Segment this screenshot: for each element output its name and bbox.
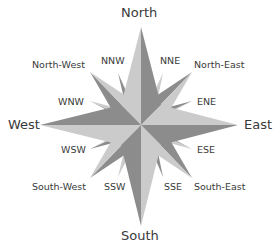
- label-ene: ENE: [197, 97, 216, 107]
- label-ssw: SSW: [104, 182, 125, 192]
- label-south: South: [121, 229, 159, 242]
- label-nne: NNE: [160, 56, 180, 66]
- label-south-east: South-East: [194, 182, 246, 192]
- label-east: East: [244, 118, 272, 131]
- label-south-west: South-West: [32, 182, 86, 192]
- label-north-west: North-West: [32, 60, 85, 70]
- label-west: West: [8, 118, 40, 131]
- cardinal-points: [40, 27, 238, 226]
- label-north-east: North-East: [194, 60, 245, 70]
- label-wnw: WNW: [58, 97, 84, 107]
- label-sse: SSE: [164, 182, 182, 192]
- label-nnw: NNW: [101, 56, 125, 66]
- compass-rose: [0, 0, 279, 248]
- label-ese: ESE: [197, 145, 215, 155]
- label-wsw: WSW: [61, 145, 86, 155]
- label-north: North: [121, 6, 157, 19]
